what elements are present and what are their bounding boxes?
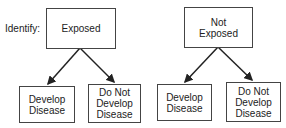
identify-label: Identify:: [5, 23, 40, 34]
not-exposed-box: Not Exposed: [184, 7, 253, 48]
exposed-develop-disease-box: Develop Disease: [19, 86, 75, 123]
not-exposed-not-develop-disease-box: Do Not Develop Disease: [226, 82, 281, 122]
exposed-not-develop-disease-box: Do Not Develop Disease: [88, 84, 141, 123]
exposed-box: Exposed: [46, 8, 116, 49]
not-exposed-develop-disease-box: Develop Disease: [157, 84, 212, 121]
